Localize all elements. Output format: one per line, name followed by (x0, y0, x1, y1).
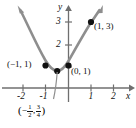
vertex-minus-sign: − (22, 105, 27, 115)
y-tick-label-3: 3 (56, 17, 61, 27)
vertex-x-numerator: 1 (27, 104, 32, 111)
vertex-close-paren: ) (42, 104, 46, 116)
y-tick-label-2: 2 (56, 40, 61, 50)
vertex-y-denominator: 4 (36, 111, 41, 119)
x-tick-label--2: -2 (17, 92, 25, 102)
point-label-0-1: (0, 1) (71, 67, 91, 76)
vertex-fraction-y: 34 (36, 104, 41, 118)
parabola-graph-figure: y x 3 2 -2 -1 1 2 (−1, 1) (0, 1) (1, 3) … (0, 0, 136, 128)
x-axis-label: x (126, 92, 130, 102)
point--1-1 (42, 62, 48, 68)
vertex-x-denominator: 2 (27, 111, 32, 119)
vertex-y-numerator: 3 (36, 104, 41, 111)
x-tick-label-1: 1 (89, 92, 94, 102)
point-label-vertex: (−12,34) (18, 104, 45, 118)
vertex-leader-line (54, 72, 58, 99)
vertex-fraction-x: 12 (27, 104, 32, 118)
x-tick-label--1: -1 (40, 92, 48, 102)
y-axis-label: y (58, 3, 62, 13)
point-label--1-1: (−1, 1) (7, 60, 32, 69)
point-label-1-3: (1, 3) (94, 22, 114, 31)
x-tick-label-2: 2 (111, 92, 116, 102)
